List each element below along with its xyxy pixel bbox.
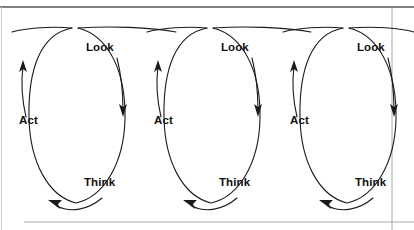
cycle-3-act-label: Act <box>290 114 309 127</box>
cycle-1-top-left-tail <box>12 27 72 32</box>
cycle-2-arrow-left-shaft <box>192 198 237 210</box>
cycle-3-arrow-up-shaft <box>293 66 297 117</box>
cycle-2-think-label: Think <box>219 176 250 189</box>
cycle-2-arrow-down-shaft <box>252 58 258 110</box>
cycle-2-arrow-up-shaft <box>157 66 161 117</box>
cycle-1-arrow-up-shaft <box>22 66 26 117</box>
cycle-1-look-label: Look <box>86 41 114 54</box>
cycle-1-act-label: Act <box>19 114 38 127</box>
cycle-2-act-label: Act <box>154 114 173 127</box>
cycle-3-look-label: Look <box>357 41 385 54</box>
cycle-3-arrow-down-shaft <box>388 58 394 110</box>
cycle-diagram-graphic <box>0 0 414 230</box>
cycle-1-arrow-down-shaft <box>117 58 123 110</box>
cycle-1-think-label: Think <box>84 176 115 189</box>
cycle-3-top-left-tail <box>283 27 343 32</box>
cycle-3-think-label: Think <box>355 176 386 189</box>
cycle-2-look-label: Look <box>221 41 249 54</box>
diagram-canvas: Look Act Think Look Act Think Look Act T… <box>0 0 414 230</box>
cycle-2-top-left-tail <box>147 27 207 32</box>
cycle-1-arrow-left-shaft <box>57 198 102 210</box>
cycle-3-arrow-left-shaft <box>328 198 373 210</box>
